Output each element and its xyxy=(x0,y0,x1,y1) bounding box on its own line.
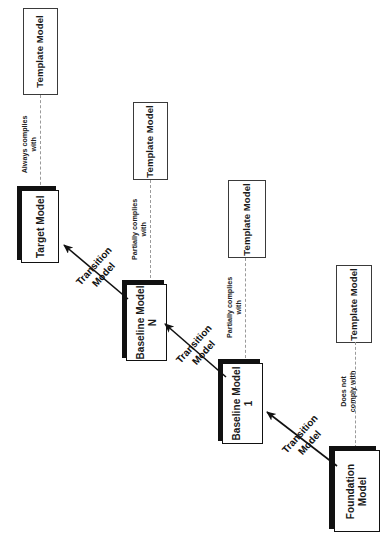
diagram-canvas: Template Model Target Model Template Mod… xyxy=(0,0,388,550)
node-baseline-model-n[interactable]: Baseline ModelN xyxy=(126,284,167,361)
node-label: Template Model xyxy=(145,105,156,177)
node-template-model-baseline-1[interactable]: Template Model xyxy=(228,180,266,258)
node-label: FoundationModel xyxy=(346,463,369,518)
node-label: Template Model xyxy=(242,183,253,255)
node-label: Baseline Model1 xyxy=(231,366,254,440)
node-template-model-baseline-n[interactable]: Template Model xyxy=(133,102,168,180)
arrow-label-transition-model-n-to-target: Transition Model xyxy=(68,238,131,304)
node-label: Template Model xyxy=(349,268,360,340)
node-label: Baseline ModelN xyxy=(135,285,158,359)
edge-label-always-complies-with: Always complies with xyxy=(20,109,39,179)
node-label: Target Model xyxy=(34,195,46,258)
compliance-line-baseline-1 xyxy=(245,258,246,358)
compliance-line-target xyxy=(40,95,41,190)
edge-label-partially-complies-with-n: Partially complies with xyxy=(130,193,149,265)
node-template-model-foundation[interactable]: Template Model xyxy=(336,265,372,343)
node-template-model-target[interactable]: Template Model xyxy=(23,8,58,95)
node-target-model[interactable]: Target Model xyxy=(21,190,59,263)
node-foundation-model[interactable]: FoundationModel xyxy=(334,450,380,532)
node-label: Template Model xyxy=(35,15,46,87)
arrow-label-transition-model-foundation-to-1: Transition Model xyxy=(274,406,337,472)
edge-label-does-not-comply-with: Does not comply with xyxy=(339,355,358,427)
compliance-line-baseline-n xyxy=(150,180,151,283)
node-baseline-model-1[interactable]: Baseline Model1 xyxy=(222,363,263,444)
